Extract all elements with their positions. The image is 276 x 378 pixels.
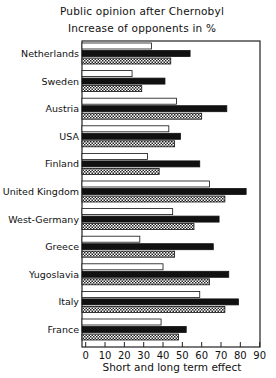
bar-hatched xyxy=(82,306,225,312)
category-label: Austria xyxy=(45,103,79,114)
bars xyxy=(82,43,246,340)
x-tick-label: 20 xyxy=(118,350,131,361)
x-tick-label: 80 xyxy=(234,350,247,361)
bar-hatched xyxy=(82,196,225,202)
x-tick-label: 70 xyxy=(215,350,228,361)
category-label: West-Germany xyxy=(8,214,79,225)
bar-black xyxy=(82,271,229,277)
x-tick-label: 50 xyxy=(176,350,189,361)
bar-hatched xyxy=(82,141,175,147)
category-labels: NetherlandsSwedenAustriaUSAFinlandUnited… xyxy=(3,48,80,335)
category-label: United Kingdom xyxy=(3,186,79,197)
bar-black xyxy=(82,106,227,112)
category-label: Finland xyxy=(45,158,79,169)
bar-black xyxy=(82,78,165,84)
category-label: Yugoslavia xyxy=(28,269,79,280)
bar-black xyxy=(82,216,219,222)
bar-black xyxy=(82,299,238,305)
bar-white xyxy=(82,264,163,270)
x-tick-label: 0 xyxy=(83,350,89,361)
bar-hatched xyxy=(82,168,159,174)
x-tick-label: 60 xyxy=(195,350,208,361)
bar-white xyxy=(82,319,161,325)
category-label: Sweden xyxy=(41,76,79,87)
category-label: Greece xyxy=(45,241,79,252)
bar-white xyxy=(82,236,140,242)
bar-black xyxy=(82,51,190,57)
category-label: France xyxy=(47,324,79,335)
bar-white xyxy=(82,153,148,159)
x-axis: 0102030405060708090 xyxy=(83,342,267,361)
bar-white xyxy=(82,98,177,104)
bar-white xyxy=(82,126,169,132)
bar-chart: NetherlandsSwedenAustriaUSAFinlandUnited… xyxy=(0,0,276,378)
bar-black xyxy=(82,133,180,139)
bar-white xyxy=(82,291,200,297)
bar-hatched xyxy=(82,58,171,64)
bar-hatched xyxy=(82,251,175,257)
bar-hatched xyxy=(82,86,142,92)
bar-black xyxy=(82,327,186,333)
bar-white xyxy=(82,71,132,77)
x-tick-label: 30 xyxy=(137,350,150,361)
bar-hatched xyxy=(82,224,194,230)
category-label: USA xyxy=(59,131,79,142)
x-tick-label: 40 xyxy=(157,350,170,361)
bar-black xyxy=(82,244,213,250)
category-label: Netherlands xyxy=(21,48,79,59)
x-tick-label: 90 xyxy=(253,350,266,361)
bar-hatched xyxy=(82,334,178,340)
bar-black xyxy=(82,161,200,167)
x-axis-label: Short and long term effect xyxy=(82,361,262,373)
bar-hatched xyxy=(82,279,209,285)
bar-white xyxy=(82,43,151,49)
bar-white xyxy=(82,181,209,187)
bar-hatched xyxy=(82,113,202,119)
category-label: Italy xyxy=(58,296,79,307)
x-tick-label: 10 xyxy=(99,350,112,361)
bar-black xyxy=(82,189,246,195)
bar-white xyxy=(82,209,173,215)
